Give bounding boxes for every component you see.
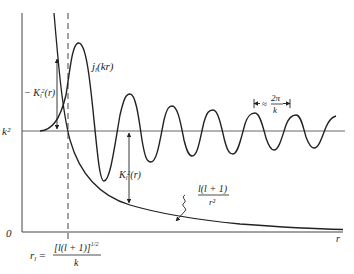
diagram-canvas: k² 0 r jl(kr) − Kl2(r) Kl2(r) l(l + 1) r… <box>0 0 354 274</box>
zero-label: 0 <box>6 227 12 239</box>
centrifugal-numerator: l(l + 1) <box>198 183 228 195</box>
centrifugal-barrier-curve <box>54 13 343 230</box>
wavelength-numerator: 2π <box>271 93 281 103</box>
negative-K-label: − Kl2(r) <box>24 87 56 99</box>
wavelength-denominator: k <box>273 105 278 115</box>
positive-K-label: Kl2(r) <box>118 169 142 181</box>
turning-point-denominator: k <box>74 257 79 268</box>
bessel-label: jl(kr) <box>90 60 114 74</box>
k-squared-label: k² <box>2 125 11 137</box>
wavelength-approx-symbol: ≈ <box>262 99 267 109</box>
turning-point-lhs: rl= <box>30 249 45 263</box>
centrifugal-denominator: r² <box>209 197 216 207</box>
r-axis-label: r <box>336 233 340 244</box>
turning-point-numerator: [l(l + 1)]1/2 <box>54 241 98 254</box>
bessel-function-curve <box>40 43 336 181</box>
